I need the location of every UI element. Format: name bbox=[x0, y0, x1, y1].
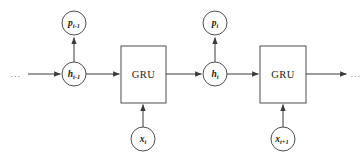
input-node-t: xt bbox=[131, 127, 155, 151]
input-node-t-subscript: t bbox=[144, 138, 146, 145]
diagram-canvas: ... ... GRU GRU pt-1 bbox=[0, 0, 363, 163]
gru-cell-left: GRU bbox=[121, 46, 166, 103]
gru-cell-right-label: GRU bbox=[271, 69, 294, 80]
hidden-node-t-subscript: t bbox=[217, 73, 219, 80]
hidden-node-t-minus-1-subscript: t-1 bbox=[73, 73, 80, 80]
gru-cell-left-label: GRU bbox=[132, 69, 155, 80]
left-ellipsis-label: ... bbox=[11, 69, 21, 79]
prediction-node-t-minus-1: pt-1 bbox=[62, 11, 86, 35]
input-node-t-plus-1: xt+1 bbox=[271, 127, 295, 151]
hidden-node-t: ht bbox=[203, 62, 227, 86]
right-ellipsis-label: ... bbox=[351, 69, 361, 79]
hidden-node-t-minus-1: ht-1 bbox=[62, 62, 86, 86]
prediction-node-t: pt bbox=[203, 11, 227, 35]
input-node-t-plus-1-subscript: t+1 bbox=[280, 138, 289, 145]
prediction-node-t-subscript: t bbox=[216, 22, 218, 29]
gru-cell-right: GRU bbox=[260, 46, 306, 103]
prediction-node-t-minus-1-subscript: t-1 bbox=[73, 22, 80, 29]
gru-unrolled-diagram: ... ... GRU GRU pt-1 bbox=[0, 0, 363, 163]
